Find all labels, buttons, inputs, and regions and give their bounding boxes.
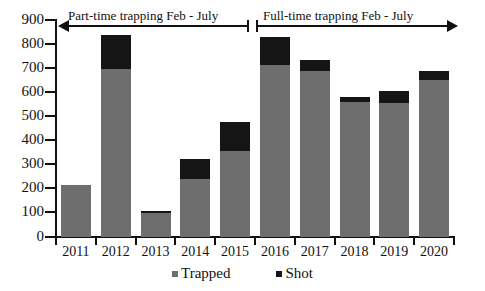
bar-segment-trapped-2012	[101, 69, 131, 237]
x-axis-label-2016: 2016	[253, 244, 297, 259]
y-axis-tick	[45, 163, 55, 165]
y-axis-tick	[45, 43, 55, 45]
bar-segment-trapped-2013	[141, 213, 171, 237]
y-axis-label: 100	[10, 204, 44, 219]
y-axis-tick	[45, 139, 55, 141]
y-axis-tick	[45, 211, 55, 213]
bar-2020	[419, 71, 449, 237]
legend-item-trapped: Trapped	[172, 266, 230, 281]
bar-segment-shot-2018	[340, 97, 370, 102]
y-axis-label: 800	[10, 36, 44, 51]
x-axis-label-2019: 2019	[372, 244, 416, 259]
bar-segment-shot-2019	[379, 91, 409, 103]
bar-segment-shot-2012	[101, 35, 131, 69]
bar-2015	[220, 122, 250, 237]
y-axis-tick	[45, 115, 55, 117]
x-axis-tick	[55, 238, 57, 245]
plot-area	[56, 20, 454, 237]
bar-2019	[379, 91, 409, 237]
legend-swatch-trapped	[172, 271, 178, 277]
annotation-full-time-arrowhead-icon	[447, 20, 458, 32]
x-axis-label-2018: 2018	[333, 244, 377, 259]
y-axis-label: 500	[10, 108, 44, 123]
x-axis-label-2011: 2011	[54, 244, 98, 259]
bar-segment-trapped-2014	[180, 179, 210, 237]
legend: Trapped Shot	[0, 266, 485, 281]
legend-item-shot: Shot	[276, 266, 313, 281]
y-axis-tick	[45, 67, 55, 69]
bar-segment-trapped-2015	[220, 151, 250, 237]
x-axis-label-2020: 2020	[412, 244, 456, 259]
bar-segment-trapped-2020	[419, 80, 449, 237]
bar-2016	[260, 37, 290, 237]
bar-segment-shot-2020	[419, 71, 449, 81]
y-axis-label: 400	[10, 132, 44, 147]
x-axis-label-2017: 2017	[293, 244, 337, 259]
bar-chart: 900 800 700 600 500 400 300 200 100 0 20…	[0, 0, 485, 291]
y-axis-label: 600	[10, 84, 44, 99]
legend-label-shot: Shot	[285, 266, 313, 281]
y-axis-label: 0	[10, 229, 44, 244]
annotation-full-time-label: Full-time trapping Feb - July	[263, 8, 413, 24]
bar-segment-trapped-2016	[260, 65, 290, 237]
bar-2013	[141, 211, 171, 237]
y-axis-label: 900	[10, 12, 44, 27]
bar-segment-trapped-2018	[340, 102, 370, 237]
bar-segment-trapped-2019	[379, 103, 409, 237]
annotation-full-time-arrow-line	[256, 25, 447, 27]
bar-segment-shot-2016	[260, 37, 290, 65]
legend-swatch-shot	[276, 271, 282, 277]
y-axis-label: 700	[10, 60, 44, 75]
bar-2011	[61, 185, 91, 237]
y-axis-label: 300	[10, 156, 44, 171]
y-axis-labels: 900 800 700 600 500 400 300 200 100 0	[0, 0, 44, 291]
bar-segment-shot-2014	[180, 159, 210, 179]
annotation-part-time-label: Part-time trapping Feb - July	[68, 8, 218, 24]
bar-segment-trapped-2017	[300, 71, 330, 237]
y-axis-tick	[45, 187, 55, 189]
y-axis-tick	[45, 91, 55, 93]
bar-2014	[180, 159, 210, 237]
x-axis-label-2015: 2015	[213, 244, 257, 259]
y-axis-tick	[45, 236, 55, 238]
bar-2017	[300, 60, 330, 237]
legend-label-trapped: Trapped	[181, 266, 230, 281]
y-axis-label: 200	[10, 180, 44, 195]
bar-segment-shot-2015	[220, 122, 250, 152]
annotation-divider-cap-left	[247, 20, 249, 32]
bar-2018	[340, 97, 370, 237]
x-axis-label-2014: 2014	[173, 244, 217, 259]
bar-2012	[101, 35, 131, 237]
x-axis-label-2012: 2012	[94, 244, 138, 259]
y-axis-tick	[45, 19, 55, 21]
bar-segment-shot-2017	[300, 60, 330, 71]
bar-segment-shot-2013	[141, 211, 171, 213]
x-axis-label-2013: 2013	[134, 244, 178, 259]
bar-segment-trapped-2011	[61, 185, 91, 237]
annotation-part-time-arrow-line	[68, 25, 249, 27]
